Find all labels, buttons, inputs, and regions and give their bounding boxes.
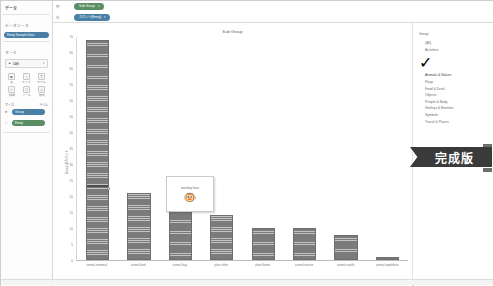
mark-tooltip: monkey face 🐵 — [166, 176, 214, 212]
legend-item-label: Food & Drink — [425, 87, 445, 91]
y-axis-tick: 15 — [57, 211, 73, 215]
data-source-pill[interactable]: Emoji Sample Data — [4, 32, 49, 38]
bar-slot[interactable] — [293, 37, 316, 260]
y-axis-tick: 20 — [57, 195, 73, 199]
marks-field-pill-label: Group — [12, 109, 45, 115]
marks-tool-tooltip[interactable]: □ ツール — [20, 86, 33, 97]
tooltip-icon: □ — [23, 86, 30, 93]
x-axis-label[interactable]: animal-reptile — [325, 264, 367, 267]
bar[interactable] — [293, 228, 316, 260]
bar-slot[interactable] — [127, 37, 150, 260]
highlighted-mark[interactable] — [87, 185, 108, 187]
chart-title: Sub Group — [53, 23, 412, 34]
bar[interactable] — [334, 235, 357, 260]
marks-type-dropdown[interactable]: ▲ 自動 ▾ — [5, 59, 48, 68]
tooltip-label: monkey face — [181, 186, 199, 190]
bar-slot[interactable] — [252, 37, 275, 260]
x-axis-label[interactable]: animal-bird — [118, 264, 160, 267]
marks-tool-grid: ■ 色 ↕ サイズ T ラベル ○ 詳細 □ ツール ◇ 形状 — [1, 70, 52, 100]
data-pane-title: データ — [1, 1, 52, 11]
legend-item[interactable]: People & Body — [419, 99, 490, 106]
bar-slot[interactable] — [334, 37, 357, 260]
completed-version-badge: 完成版 — [410, 144, 492, 172]
ribbon-body: 完成版 — [410, 147, 492, 167]
pill-label: カウント(Emoji) — [79, 14, 101, 21]
legend-item-wrap: Smileys & Emotion — [419, 105, 490, 112]
bar-slot[interactable] — [210, 37, 233, 260]
size-icon: ↕ — [23, 73, 30, 80]
rows-pill-count-emoji[interactable]: カウント(Emoji) ▾ — [74, 14, 110, 21]
x-axis-label[interactable]: animal-marine — [284, 264, 326, 267]
marks-tool-detail[interactable]: ○ 詳細 — [5, 86, 18, 97]
ribbon-tail-bottom — [483, 168, 492, 172]
bar[interactable] — [376, 257, 399, 260]
marks-tool-label[interactable]: T ラベル — [35, 73, 48, 84]
rows-shelf[interactable]: 行 カウント(Emoji) ▾ — [53, 12, 493, 23]
y-axis-tick: 65 — [57, 51, 73, 55]
monkey-face-icon: 🐵 — [183, 192, 197, 203]
legend-item[interactable]: Flags — [419, 79, 490, 86]
bar-slot[interactable] — [376, 37, 399, 260]
data-source-label: データソース — [1, 18, 52, 30]
columns-shelf[interactable]: 列 Sub Group ▾ — [53, 1, 493, 12]
marks-tool-size[interactable]: ↕ サイズ — [20, 73, 33, 84]
marks-type-icon: ▲ — [8, 61, 11, 65]
plot-wrapper: Emoji のカウント 0510152025303540455055606570… — [53, 37, 410, 286]
y-axis-tick: 35 — [57, 147, 73, 151]
x-axis-label[interactable]: animal-amphibian — [367, 264, 409, 267]
tableau-worksheet-window: データ データソース Emoji Sample Data マーク ▲ 自動 ▾ … — [0, 0, 493, 286]
cursor-dot — [107, 187, 110, 190]
bar[interactable] — [169, 206, 192, 260]
shape-icon: ◇ — [38, 86, 45, 93]
bar[interactable] — [210, 215, 233, 260]
legend-item-wrap: Food & Drink — [419, 85, 490, 92]
y-axis-tick: 40 — [57, 131, 73, 135]
x-axis-label[interactable]: animal-bug — [159, 264, 201, 267]
plot-area[interactable] — [76, 37, 408, 261]
legend-item-label: Smileys & Emotion — [425, 106, 453, 110]
legend-item[interactable]: Travel & Places — [419, 118, 490, 125]
bar-slot[interactable] — [169, 37, 192, 260]
color-icon: ■ — [8, 73, 15, 80]
marks-tool-label: サイズ — [22, 80, 31, 84]
legend-item[interactable]: Animals & Nature — [419, 72, 490, 79]
legend-item[interactable]: Objects — [419, 92, 490, 99]
marks-field-emoji[interactable]: ◇ Emoji — [1, 118, 52, 129]
legend-item-label: People & Body — [425, 100, 447, 104]
text-label-icon: T — [38, 73, 45, 80]
check-icon: ✓ — [419, 54, 432, 71]
bar[interactable] — [127, 193, 150, 260]
y-axis-ticks: 0510152025303540455055606570 — [58, 37, 74, 261]
chevron-down-icon: ▾ — [98, 3, 100, 10]
bar[interactable] — [252, 228, 275, 260]
ribbon-text: 完成版 — [435, 149, 474, 166]
x-axis-label[interactable]: plant-other — [201, 264, 243, 267]
bar[interactable] — [86, 40, 109, 260]
legend-item-label: Animals & Nature — [425, 73, 451, 77]
columns-pill-sub-group[interactable]: Sub Group ▾ — [74, 3, 104, 10]
legend-item-wrap: Travel & Places — [419, 118, 490, 125]
marks-tool-color[interactable]: ■ 色 — [5, 73, 18, 84]
marks-shelf-label-left: サイズ — [5, 102, 14, 107]
bar-slot[interactable] — [86, 37, 109, 260]
legend-item[interactable]: Food & Drink — [419, 85, 490, 92]
y-axis-tick: 5 — [57, 243, 73, 247]
legend-item-wrap: People & Body — [419, 99, 490, 106]
legend-item[interactable]: Symbols — [419, 112, 490, 119]
shelf-container: 列 Sub Group ▾ 行 カウント(Emoji) ▾ — [53, 1, 493, 23]
chevron-down-icon: ▾ — [43, 61, 45, 65]
pill-label: Sub Group — [79, 3, 95, 10]
x-axis-label[interactable]: animal-mammal — [76, 264, 118, 267]
marks-shelf-labels: サイズ ラベル — [1, 100, 52, 107]
data-pane: データ データソース Emoji Sample Data マーク ▲ 自動 ▾ … — [1, 1, 53, 286]
marks-card-label: マーク — [1, 45, 52, 57]
y-axis-tick: 30 — [57, 163, 73, 167]
legend-item[interactable]: Activities — [419, 47, 490, 54]
legend-item[interactable]: (All) — [419, 40, 490, 47]
x-axis-label[interactable]: plant-flower — [242, 264, 284, 267]
marks-field-group[interactable]: ■ Group — [1, 107, 52, 118]
legend-item[interactable]: Smileys & Emotion — [419, 105, 490, 112]
legend-item-label: Objects — [425, 93, 437, 97]
marks-tool-shape[interactable]: ◇ 形状 — [35, 86, 48, 97]
divider — [3, 41, 50, 42]
